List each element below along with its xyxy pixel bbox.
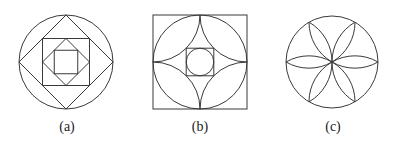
middle-square (43, 39, 90, 86)
label-c: (c) (313, 119, 353, 135)
figure-b (153, 15, 247, 109)
inner-circle (186, 48, 214, 76)
corner-arc-bottom-right (200, 62, 247, 109)
inner-square (54, 50, 78, 74)
corner-arc-top-right (200, 15, 247, 62)
outer-circle (19, 15, 113, 109)
label-b: (b) (180, 119, 220, 135)
corner-arc-top-left (153, 15, 200, 62)
corner-arc-bottom-left (153, 62, 200, 109)
inscribed-circle (153, 15, 247, 109)
inner-diamond (43, 39, 90, 86)
label-a: (a) (47, 119, 87, 135)
figure-c (286, 16, 378, 108)
figure-a (19, 15, 113, 109)
